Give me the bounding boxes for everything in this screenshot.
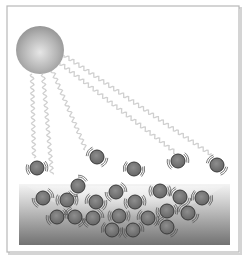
- sun-icon: [16, 26, 64, 74]
- molecule-circle: [160, 204, 174, 218]
- sun-circle: [16, 26, 64, 74]
- molecule-circle: [153, 184, 167, 198]
- molecule-circle: [195, 191, 209, 205]
- molecule-circle: [128, 195, 142, 209]
- molecule-circle: [68, 210, 82, 224]
- molecule-circle: [141, 211, 155, 225]
- molecule-circle: [30, 161, 44, 175]
- molecule-circle: [210, 158, 224, 172]
- molecule-circle: [112, 209, 126, 223]
- evaporation-diagram: [0, 0, 248, 261]
- molecule-circle: [160, 220, 174, 234]
- molecule-circle: [127, 162, 141, 176]
- molecule-circle: [90, 150, 104, 164]
- molecule-circle: [71, 179, 85, 193]
- molecule-circle: [36, 191, 50, 205]
- molecule-circle: [109, 185, 123, 199]
- molecule-circle: [173, 190, 187, 204]
- molecule-circle: [105, 223, 119, 237]
- molecule-circle: [89, 195, 103, 209]
- molecule-circle: [50, 210, 64, 224]
- molecule-circle: [86, 211, 100, 225]
- molecule-circle: [126, 223, 140, 237]
- molecule-circle: [181, 206, 195, 220]
- molecule-circle: [171, 154, 185, 168]
